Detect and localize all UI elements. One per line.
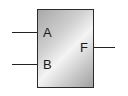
input-b-wire <box>12 64 37 65</box>
input-a-label: A <box>43 26 52 39</box>
output-f-wire <box>94 47 115 48</box>
input-a-wire <box>12 32 37 33</box>
input-b-label: B <box>43 58 52 71</box>
output-f-label: F <box>80 41 88 54</box>
